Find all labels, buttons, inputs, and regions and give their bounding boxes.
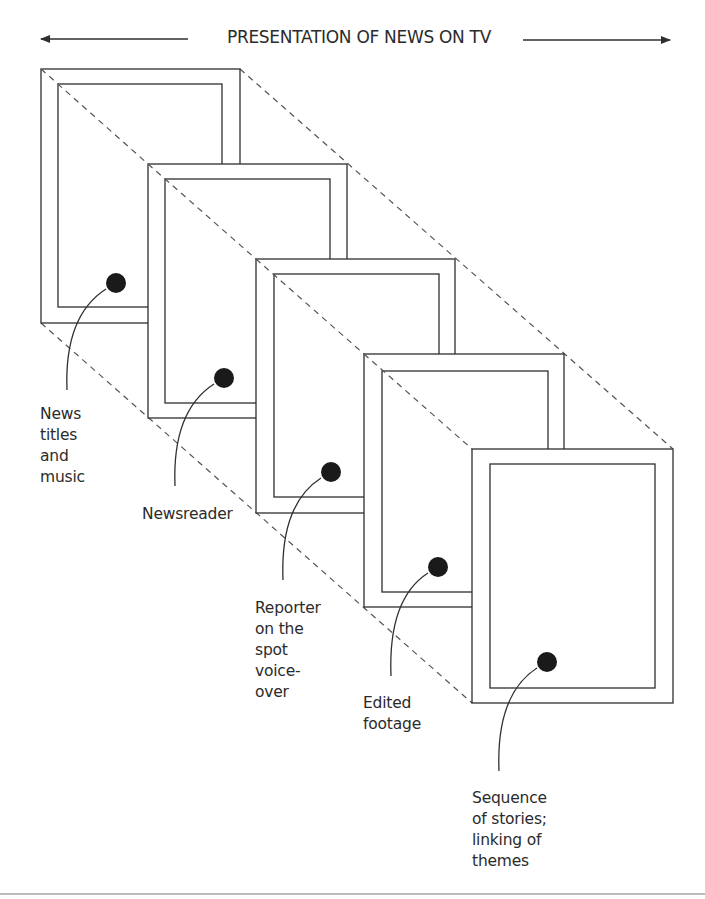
tv-frame-5 xyxy=(472,449,673,703)
news-presentation-diagram: PRESENTATION OF NEWS ON TV News titles a… xyxy=(0,0,705,899)
marker-dot-icon xyxy=(537,652,557,672)
diagram-title: PRESENTATION OF NEWS ON TV xyxy=(200,27,518,47)
label-reporter-on-the-spot: Reporter on the spot voice- over xyxy=(255,598,321,703)
marker-dot-icon xyxy=(214,368,234,388)
marker-dot-icon xyxy=(106,273,126,293)
marker-dot-icon xyxy=(321,462,341,482)
label-newsreader: Newsreader xyxy=(142,504,233,525)
frames-stack xyxy=(41,69,673,703)
label-sequence-of-stories: Sequence of stories; linking of themes xyxy=(472,788,547,872)
diagram-canvas xyxy=(0,0,705,899)
frame-screen xyxy=(490,464,655,688)
label-news-titles-and-music: News titles and music xyxy=(40,404,85,488)
label-edited-footage: Edited footage xyxy=(363,693,421,735)
marker-dot-icon xyxy=(428,557,448,577)
